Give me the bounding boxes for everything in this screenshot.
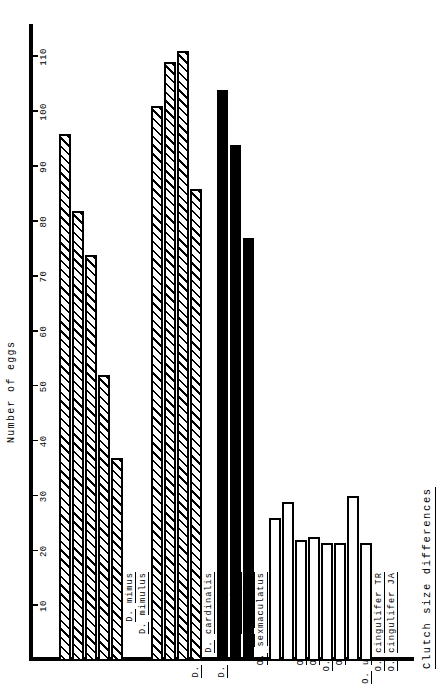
axis-tick xyxy=(33,605,38,607)
axis-tick xyxy=(33,440,38,442)
bar[interactable] xyxy=(98,375,110,661)
bar[interactable] xyxy=(230,145,242,661)
axis-tick xyxy=(33,330,38,332)
bar[interactable] xyxy=(190,189,202,661)
axis-tick xyxy=(33,495,38,497)
bar-chart-figure: Clutch size differences Number of eggs D… xyxy=(0,0,442,686)
bar[interactable] xyxy=(282,502,294,661)
bar[interactable] xyxy=(269,518,281,661)
axis-tick-label: 100 xyxy=(39,103,49,121)
bar[interactable] xyxy=(217,90,229,661)
bar[interactable] xyxy=(308,537,320,661)
axis-tick xyxy=(33,275,38,277)
bar[interactable] xyxy=(85,255,97,661)
bar[interactable] xyxy=(321,543,333,661)
value-axis-label: Number of eggs xyxy=(6,341,17,443)
rotated-figure-canvas: Clutch size differences Number of eggs D… xyxy=(0,0,442,686)
genus-abbreviation: D. xyxy=(217,665,229,677)
value-axis-line xyxy=(29,24,33,661)
axis-tick xyxy=(33,110,38,112)
genus-abbreviation: O. xyxy=(361,671,373,683)
axis-tick-label: 30 xyxy=(39,490,49,502)
bar[interactable] xyxy=(360,543,372,661)
axis-tick xyxy=(33,550,38,552)
axis-tick-label: 50 xyxy=(39,381,49,393)
axis-tick-label: 110 xyxy=(39,48,49,66)
bar[interactable] xyxy=(177,51,189,661)
axis-tick-label: 40 xyxy=(39,435,49,447)
genus-abbreviation: D. xyxy=(191,665,203,677)
bar[interactable] xyxy=(59,134,71,661)
axis-tick xyxy=(33,165,38,167)
bar[interactable] xyxy=(151,106,163,661)
axis-tick-label: 10 xyxy=(39,600,49,612)
axis-tick-label: 90 xyxy=(39,161,49,173)
axis-tick xyxy=(33,220,38,222)
axis-tick-label: 70 xyxy=(39,271,49,283)
bar[interactable] xyxy=(334,543,346,661)
axis-tick-label: 80 xyxy=(39,216,49,228)
plot-area: 102030405060708090100110 xyxy=(29,24,414,661)
axis-tick-label: 60 xyxy=(39,326,49,338)
bar[interactable] xyxy=(243,238,255,661)
bar[interactable] xyxy=(72,211,84,661)
bar[interactable] xyxy=(295,540,307,661)
bar[interactable] xyxy=(347,496,359,661)
axis-tick xyxy=(33,385,38,387)
axis-tick-label: 20 xyxy=(39,545,49,557)
page-title: Clutch size differences xyxy=(422,487,436,669)
bar[interactable] xyxy=(164,62,176,661)
axis-tick xyxy=(33,55,38,57)
bar[interactable] xyxy=(111,458,123,661)
